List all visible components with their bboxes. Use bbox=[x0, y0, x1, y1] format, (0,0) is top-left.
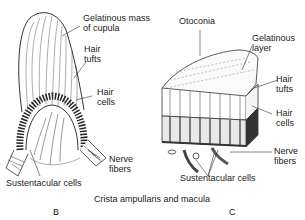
label-gelatinous-layer-line2: layer bbox=[252, 43, 295, 53]
label-c-hair-tufts: Hair tufts bbox=[276, 74, 293, 94]
label-b-sustentacular-cells: Sustentacular cells bbox=[6, 178, 82, 188]
macula-drawing bbox=[162, 50, 258, 172]
label-b-nerve-fibers-line1: Nerve bbox=[109, 154, 133, 164]
label-c-nerve-fibers: Nerve fibers bbox=[274, 146, 298, 166]
label-c-hair-cells-line2: cells bbox=[276, 118, 294, 128]
label-cupula: Gelatinous mass of cupula bbox=[83, 13, 150, 33]
label-c-nerve-fibers-line2: fibers bbox=[274, 156, 298, 166]
panel-letter-c: C bbox=[229, 207, 236, 217]
label-b-hair-tufts: Hair tufts bbox=[84, 44, 101, 64]
panel-letter-b: B bbox=[53, 207, 59, 217]
label-b-nerve-fibers: Nerve fibers bbox=[109, 154, 133, 174]
label-b-hair-tufts-line1: Hair bbox=[84, 44, 101, 54]
label-b-hair-cells: Hair cells bbox=[97, 87, 115, 107]
label-b-nerve-fibers-line2: fibers bbox=[109, 164, 133, 174]
label-c-nerve-fibers-line1: Nerve bbox=[274, 146, 298, 156]
label-gelatinous-layer-line1: Gelatinous bbox=[252, 33, 295, 43]
label-cupula-line1: Gelatinous mass bbox=[83, 13, 150, 23]
label-b-hair-tufts-line2: tufts bbox=[84, 54, 101, 64]
label-c-hair-cells: Hair cells bbox=[276, 108, 294, 128]
crista-ampullaris-drawing bbox=[6, 13, 106, 176]
label-gelatinous-layer: Gelatinous layer bbox=[252, 33, 295, 53]
label-c-hair-tufts-line2: tufts bbox=[276, 84, 293, 94]
label-c-sustentacular-cells: Sustentacular cells bbox=[180, 173, 256, 183]
label-c-hair-cells-line1: Hair bbox=[276, 108, 294, 118]
label-otoconia: Otoconia bbox=[179, 16, 215, 26]
label-b-hair-cells-line1: Hair bbox=[97, 87, 115, 97]
label-c-hair-tufts-line1: Hair bbox=[276, 74, 293, 84]
figure-caption: Crista ampullaris and macula bbox=[94, 194, 210, 204]
label-cupula-line2: of cupula bbox=[83, 23, 150, 33]
label-b-hair-cells-line2: cells bbox=[97, 97, 115, 107]
